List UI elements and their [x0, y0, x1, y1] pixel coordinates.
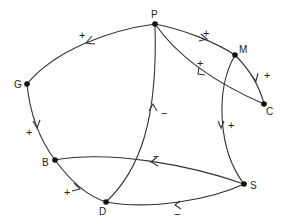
edge-c-p [155, 24, 264, 104]
arrow-d-p-icon [149, 104, 157, 111]
edge-b-d [55, 160, 106, 202]
label-s: S [250, 180, 257, 191]
label-b: B [42, 157, 49, 168]
sign-m-s: + [228, 119, 234, 131]
sign-p-g: + [79, 29, 85, 41]
arrow-g-b-icon [33, 120, 40, 128]
sign-c-p: + [197, 57, 203, 69]
edge-s-d [106, 184, 244, 205]
sign-g-b: + [26, 126, 32, 138]
sign-m-c: + [264, 69, 270, 81]
edge-g-b [27, 84, 55, 160]
sign-d-p: − [161, 107, 167, 119]
edge-p-g [27, 24, 155, 84]
node-p [152, 21, 158, 27]
label-c: C [266, 106, 273, 117]
label-p: P [151, 9, 158, 20]
node-s [241, 181, 247, 187]
node-b [52, 157, 58, 163]
node-d [103, 199, 109, 205]
sign-s-b: − [153, 150, 159, 162]
edge-m-c [235, 55, 264, 104]
label-g: G [14, 79, 22, 90]
edge-s-b [55, 157, 244, 184]
signed-digraph: + + + − + + + + − − P M C G B D S [0, 0, 287, 223]
label-m: M [239, 44, 247, 55]
node-g [24, 81, 30, 87]
label-d: D [99, 206, 106, 217]
node-m [232, 52, 238, 58]
edge-d-p [106, 24, 155, 202]
arrow-m-c-icon [251, 73, 258, 81]
sign-p-m: + [203, 27, 209, 39]
sign-b-d: + [64, 186, 70, 198]
sign-s-d: − [174, 208, 180, 220]
